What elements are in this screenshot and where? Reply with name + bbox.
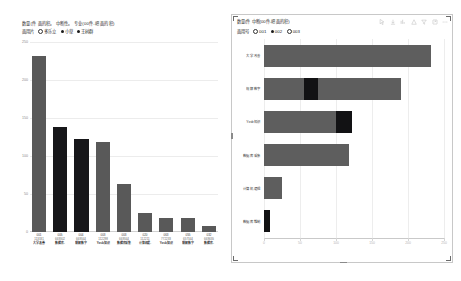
y-tick-label: 100 bbox=[22, 154, 28, 158]
export-icon[interactable] bbox=[432, 19, 438, 25]
bar[interactable] bbox=[117, 184, 131, 232]
legend-item-label: 002 bbox=[275, 29, 282, 34]
x-label-name: 数据库. bbox=[52, 242, 69, 246]
bar[interactable] bbox=[264, 177, 282, 199]
bar-slot[interactable] bbox=[51, 42, 69, 232]
filter-icon[interactable] bbox=[421, 19, 427, 25]
bar-slot[interactable] bbox=[115, 42, 133, 232]
bar[interactable] bbox=[138, 213, 152, 232]
x-label-group: 001113331大学改善 bbox=[30, 234, 48, 246]
x-label-name: 规解数字 bbox=[179, 242, 196, 246]
y-tick-label: 0 bbox=[26, 230, 28, 234]
x-label-group: 003669344数据库采集 bbox=[115, 234, 133, 246]
bar-slot[interactable] bbox=[179, 42, 197, 232]
dot-dark-icon bbox=[61, 30, 64, 33]
bar-slot[interactable] bbox=[94, 42, 112, 232]
legend-item-1[interactable]: 002 bbox=[271, 29, 282, 34]
x-tick-label: 100 bbox=[333, 241, 339, 245]
bar[interactable] bbox=[264, 144, 349, 166]
category-label: 规解数字 bbox=[246, 86, 261, 91]
vertical-bars bbox=[30, 42, 218, 232]
x-label-name: 规解数字 bbox=[73, 242, 90, 246]
x-tick-label: 250 bbox=[441, 241, 447, 245]
category-label: 大学改善 bbox=[246, 53, 261, 58]
left-chart-title: 数量(件 面的积。 中断性。 专业(00件-吧 面的积) bbox=[22, 20, 115, 26]
bar[interactable] bbox=[202, 226, 216, 232]
right-chart-panel[interactable]: 数量(件 中断(00件-吧 面的积) 面用号 001 002 003 bbox=[231, 14, 453, 263]
gridline bbox=[444, 39, 445, 238]
legend-item-0[interactable]: 001 bbox=[253, 29, 266, 34]
bar-row[interactable]: 计算机逻辑 bbox=[264, 177, 444, 199]
category-label: 计算机逻辑 bbox=[243, 186, 261, 191]
bar-slot[interactable] bbox=[30, 42, 48, 232]
bar[interactable] bbox=[96, 142, 110, 232]
x-label-name: 大学改善 bbox=[30, 242, 47, 246]
right-chart-legend: 面用号 001 002 003 bbox=[237, 28, 302, 34]
selection-corner-top-left[interactable] bbox=[233, 16, 238, 21]
category-label: Yxsb知识 bbox=[246, 120, 261, 125]
x-label-group: 004669344规解数字 bbox=[72, 234, 90, 246]
bar-slot[interactable] bbox=[136, 42, 154, 232]
bar-slot[interactable] bbox=[157, 42, 175, 232]
legend-item-0[interactable]: 多乐立 bbox=[38, 28, 56, 34]
bar-highlight-segment[interactable] bbox=[336, 111, 352, 133]
star-hollow-icon bbox=[38, 29, 43, 34]
x-label-name: 计算机逻. bbox=[137, 242, 154, 246]
legend-item-1[interactable]: 小草 bbox=[61, 28, 73, 34]
x-tick-label: 50 bbox=[298, 241, 302, 245]
y-tick-label: 150 bbox=[22, 116, 28, 120]
x-tick-label: 200 bbox=[405, 241, 411, 245]
chart-toolbar[interactable] bbox=[379, 17, 448, 26]
y-tick-label: 200 bbox=[22, 78, 28, 82]
bar[interactable] bbox=[181, 218, 195, 232]
bar-highlight-segment[interactable] bbox=[264, 210, 270, 232]
right-plot-area: 大学改善规解数字Yxsb知识数据库采集计算机逻辑数据库维制 bbox=[264, 39, 444, 238]
bar-row[interactable]: 大学改善 bbox=[264, 45, 444, 67]
selection-corner-bottom-left[interactable] bbox=[233, 256, 238, 261]
bar[interactable] bbox=[74, 139, 88, 232]
bar[interactable] bbox=[32, 56, 46, 232]
x-label-name: Yxsb知识 bbox=[94, 242, 111, 246]
x-tick-label: 0 bbox=[263, 241, 265, 245]
legend-label: 面用号 bbox=[237, 28, 249, 34]
bar[interactable] bbox=[264, 111, 352, 133]
selection-corner-top-right[interactable] bbox=[446, 16, 451, 21]
x-label-name: Yxsb知识 bbox=[158, 242, 175, 246]
chart-icon[interactable] bbox=[411, 19, 417, 25]
left-chart-legend: 面用片 多乐立 小草 王树群 bbox=[22, 28, 96, 34]
dot-hollow-icon bbox=[253, 29, 258, 34]
bar-slot[interactable] bbox=[200, 42, 218, 232]
y-tick-label: 250 bbox=[22, 40, 28, 44]
bar[interactable] bbox=[159, 218, 173, 232]
legend-label: 面用片 bbox=[22, 28, 34, 34]
bar[interactable] bbox=[264, 45, 431, 67]
bar-row[interactable]: 数据库维制 bbox=[264, 210, 444, 232]
resize-handle-left[interactable] bbox=[231, 133, 233, 139]
x-axis-labels: 001113331大学改善005669302数据库.004669344规解数字0… bbox=[30, 234, 218, 246]
legend-item-label: 001 bbox=[259, 29, 266, 34]
bar[interactable] bbox=[264, 210, 270, 232]
resize-handle-bottom[interactable] bbox=[340, 262, 347, 264]
legend-item-2[interactable]: 003 bbox=[287, 29, 300, 34]
right-x-axis-line bbox=[264, 238, 444, 239]
bar-row[interactable]: Yxsb知识 bbox=[264, 111, 444, 133]
bar[interactable] bbox=[264, 78, 401, 100]
bar[interactable] bbox=[53, 127, 67, 232]
sort-icon[interactable] bbox=[400, 19, 406, 25]
x-tick-label: 150 bbox=[369, 241, 375, 245]
download-icon[interactable] bbox=[390, 19, 396, 25]
x-label-group: 020112211计算机逻. bbox=[136, 234, 154, 246]
selection-corner-bottom-right[interactable] bbox=[446, 256, 451, 261]
legend-item-2[interactable]: 王树群 bbox=[77, 28, 93, 34]
bar-row[interactable]: 数据库采集 bbox=[264, 144, 444, 166]
x-label-group: 005669302数据库. bbox=[51, 234, 69, 246]
bar-slot[interactable] bbox=[72, 42, 90, 232]
dot-hollow-icon bbox=[287, 29, 292, 34]
bar-highlight-segment[interactable] bbox=[304, 78, 318, 100]
x-label-name: 数据库采集 bbox=[115, 242, 132, 246]
x-label-group: 032669655数据库. bbox=[200, 234, 218, 246]
bar-row[interactable]: 规解数字 bbox=[264, 78, 444, 100]
cursor-icon[interactable] bbox=[379, 19, 385, 25]
x-label-name: 数据库. bbox=[200, 242, 217, 246]
y-tick-label: 50 bbox=[24, 192, 28, 196]
